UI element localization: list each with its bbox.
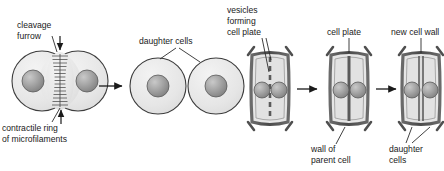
diagram-canvas: cleavage furrow contractile ring of micr… bbox=[0, 0, 444, 171]
nucleus bbox=[333, 82, 349, 98]
vesicles-label-line1: vesicles bbox=[227, 5, 258, 15]
cytokinesis-diagram: cleavage furrow contractile ring of micr… bbox=[0, 0, 444, 171]
nucleus bbox=[404, 82, 420, 98]
plant-daughter-leader-left bbox=[406, 127, 412, 143]
plant-daughter-label-line2: cells bbox=[389, 155, 406, 165]
nucleus bbox=[271, 82, 287, 98]
vesicles-label-line3: cell plate bbox=[227, 27, 261, 37]
daughter-cell-left bbox=[130, 58, 186, 114]
contractile-ring-leader bbox=[52, 108, 60, 122]
wall-parent-leader bbox=[336, 127, 345, 144]
nucleus bbox=[205, 75, 227, 97]
new-cell-wall-label: new cell wall bbox=[391, 27, 439, 37]
contractile-ring-label-line2: of microfilaments bbox=[2, 134, 67, 144]
plant-daughter-leader-right bbox=[412, 127, 430, 143]
daughter-cells-leader-left bbox=[160, 48, 176, 59]
nucleus bbox=[76, 70, 98, 92]
plant-panel: vesicles forming cell plate cell plate n… bbox=[227, 5, 443, 165]
daughter-cells-leader-right bbox=[179, 48, 200, 62]
dividing-cell bbox=[12, 51, 108, 111]
contractile-ring-label-line1: contractile ring bbox=[2, 123, 58, 133]
daughter-cells-label: daughter cells bbox=[139, 36, 193, 46]
wall-parent-label-line2: parent cell bbox=[311, 155, 351, 165]
daughter-cell-right bbox=[188, 58, 244, 114]
nucleus bbox=[350, 82, 366, 98]
wall-parent-label-line1: wall of bbox=[310, 144, 336, 154]
nucleus bbox=[147, 75, 169, 97]
plant-daughter-label-line1: daughter bbox=[389, 144, 423, 154]
animal-panel: cleavage furrow contractile ring of micr… bbox=[2, 20, 244, 144]
nucleus bbox=[22, 70, 44, 92]
cleavage-furrow-leader bbox=[52, 36, 57, 52]
nucleus bbox=[254, 82, 270, 98]
cell-plate-label: cell plate bbox=[327, 27, 361, 37]
plant-cell-stage-3 bbox=[399, 47, 443, 130]
vesicles-label-line2: forming bbox=[227, 16, 256, 26]
cleavage-furrow-label-line1: cleavage bbox=[17, 20, 52, 30]
nucleus bbox=[422, 82, 438, 98]
plant-cell-stage-2 bbox=[327, 47, 371, 130]
plant-cell-stage-1 bbox=[248, 47, 292, 130]
cleavage-furrow-label-line2: furrow bbox=[17, 31, 42, 41]
